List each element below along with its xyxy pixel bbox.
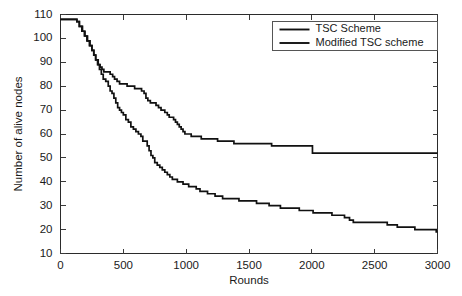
x-tick-label: 2000 [299,259,325,271]
y-axis-title: Number of alive nodes [12,76,24,191]
x-axis-title: Rounds [229,274,269,286]
legend-label-tsc-scheme: TSC Scheme [316,22,381,34]
line-chart: 1020304050607080901001100500100015002000… [0,0,462,296]
x-tick-label: 1000 [173,259,199,271]
y-tick-label: 40 [40,175,53,187]
y-tick-label: 60 [40,127,53,139]
x-tick-label: 3000 [425,259,451,271]
y-tick-label: 20 [40,223,53,235]
x-tick-label: 0 [57,259,63,271]
y-tick-label: 50 [40,151,53,163]
x-tick-label: 500 [114,259,133,271]
x-tick-label: 2500 [362,259,388,271]
y-tick-label: 100 [33,31,52,43]
legend-label-modified-tsc-scheme: Modified TSC scheme [316,36,424,48]
series-line-modified-tsc-scheme [61,19,438,232]
x-tick-label: 1500 [236,259,262,271]
chart-legend: TSC SchemeModified TSC scheme [273,22,438,51]
series-layer [61,19,438,232]
y-tick-label: 110 [34,8,52,20]
y-tick-label: 90 [40,55,53,67]
y-tick-label: 80 [40,79,53,91]
y-tick-label: 10 [40,247,53,259]
y-tick-label: 70 [40,103,53,115]
y-tick-label: 30 [40,199,53,211]
chart-container: 1020304050607080901001100500100015002000… [0,0,462,296]
